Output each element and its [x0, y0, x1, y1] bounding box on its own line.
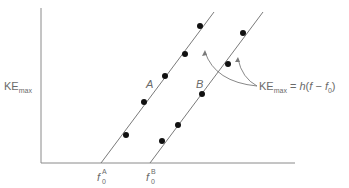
line-a-label: A — [146, 78, 153, 90]
line-b — [150, 12, 263, 163]
threshold-label-b: fB0 — [146, 171, 149, 183]
threshold-label-a: fA0 — [97, 171, 100, 183]
annotation-arrows — [205, 52, 257, 86]
arrowheads — [202, 50, 240, 62]
photoelectric-diagram — [0, 0, 349, 188]
equation-annotation: KEmax = h(f − f0) — [259, 80, 336, 94]
line-b-label: B — [196, 78, 203, 90]
y-axis-label: KEmax — [4, 80, 32, 94]
